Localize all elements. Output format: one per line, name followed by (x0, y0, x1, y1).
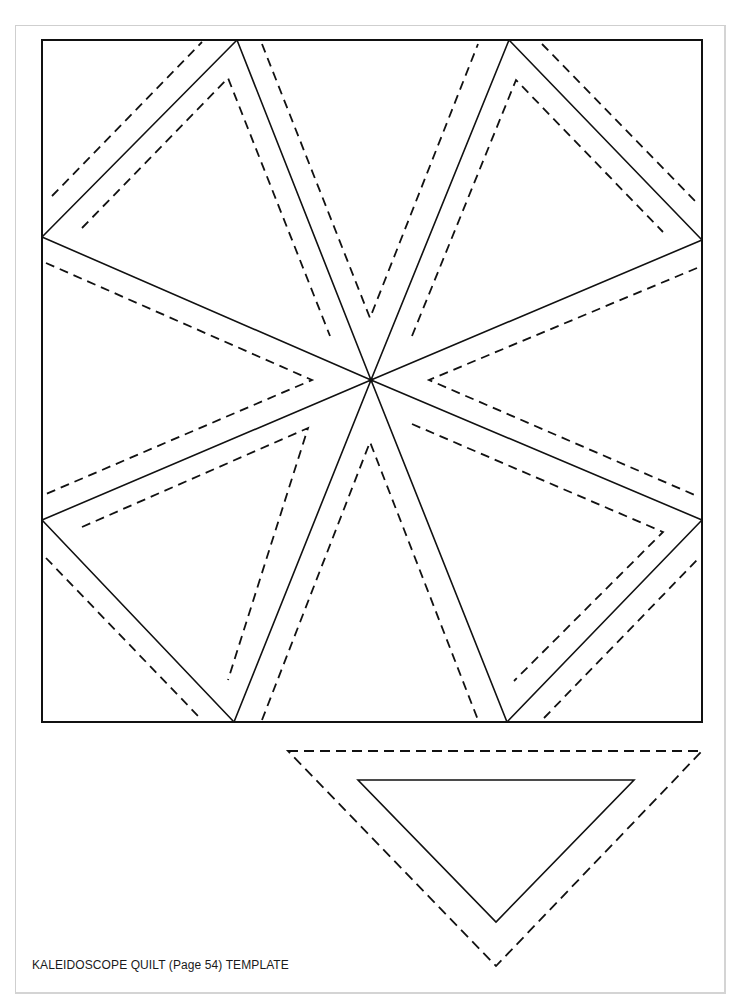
seam-allowance-outline (288, 751, 702, 966)
cutting-line (507, 520, 702, 722)
seam-line-dashed (82, 78, 330, 336)
seam-line-dashed (544, 560, 697, 718)
seam-line-dashed (46, 263, 312, 494)
quilt-template-drawing (0, 0, 733, 1007)
triangle-template-piece (288, 751, 702, 966)
cutting-line (237, 40, 371, 380)
cutting-line (371, 40, 509, 380)
seam-line-dashed (542, 44, 699, 205)
piece-cutting-outline (358, 780, 634, 922)
seam-line-dashed (82, 428, 308, 680)
seam-line-dashed (46, 558, 200, 718)
template-caption: KALEIDOSCOPE QUILT (Page 54) TEMPLATE (32, 958, 289, 972)
cutting-line (371, 240, 702, 380)
kaleidoscope-block (42, 40, 702, 722)
seam-line-dashed (262, 442, 478, 720)
cutting-line (42, 520, 234, 722)
cutting-line (509, 40, 702, 240)
cutting-line (42, 237, 371, 380)
cutting-line (42, 40, 237, 237)
cutting-line (42, 380, 371, 520)
center-point (369, 378, 373, 382)
seam-line-dashed (52, 42, 202, 196)
cutting-line (371, 380, 507, 722)
cutting-line (371, 380, 702, 520)
seam-line-dashed (262, 44, 478, 318)
seam-line-dashed (412, 424, 663, 681)
